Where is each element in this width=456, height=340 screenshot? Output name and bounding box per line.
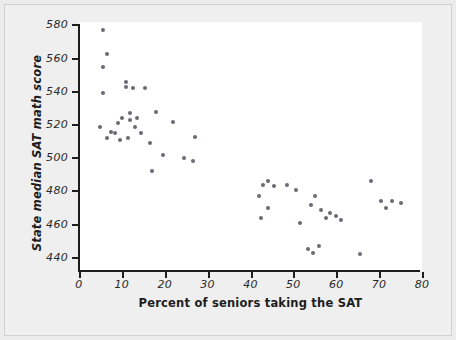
data-point <box>143 86 147 90</box>
data-point <box>101 28 105 32</box>
data-point <box>285 183 289 187</box>
data-point <box>118 138 122 142</box>
y-axis-tick <box>72 124 78 126</box>
data-point <box>309 203 313 207</box>
x-axis-title: Percent of seniors taking the SAT <box>79 296 422 310</box>
data-point <box>98 125 102 129</box>
data-point <box>294 188 298 192</box>
x-axis-tick-label: 50 <box>278 278 308 291</box>
x-axis-tick-label: 0 <box>64 278 94 291</box>
data-point <box>101 65 105 69</box>
x-axis-tick-label: 70 <box>364 278 394 291</box>
data-point <box>154 110 158 114</box>
data-point <box>379 199 383 203</box>
data-point <box>191 159 195 163</box>
data-point <box>126 136 130 140</box>
data-point <box>150 169 154 173</box>
data-point <box>116 121 120 125</box>
data-points-layer <box>79 22 422 271</box>
data-point <box>261 183 265 187</box>
data-point <box>358 252 362 256</box>
data-point <box>369 179 373 183</box>
y-axis-tick <box>72 157 78 159</box>
y-axis-tick <box>72 224 78 226</box>
data-point <box>390 199 394 203</box>
y-axis-tick <box>72 190 78 192</box>
data-point <box>317 244 321 248</box>
data-point <box>259 216 263 220</box>
data-point <box>131 86 135 90</box>
data-point <box>266 206 270 210</box>
data-point <box>319 208 323 212</box>
data-point <box>128 111 132 115</box>
y-axis-tick <box>72 24 78 26</box>
x-axis-tick-label: 80 <box>407 278 437 291</box>
data-point <box>313 194 317 198</box>
y-axis-line <box>78 24 80 272</box>
x-axis-tick-label: 10 <box>107 278 137 291</box>
data-point <box>101 91 105 95</box>
y-axis-tick <box>72 91 78 93</box>
data-point <box>324 216 328 220</box>
y-axis-tick <box>72 58 78 60</box>
data-point <box>266 179 270 183</box>
data-point <box>339 218 343 222</box>
data-point <box>193 135 197 139</box>
plot-area <box>79 22 422 271</box>
y-axis-tick <box>72 257 78 259</box>
y-axis-title: State median SAT math score <box>30 28 44 278</box>
data-point <box>328 211 332 215</box>
data-point <box>306 247 310 251</box>
data-point <box>161 153 165 157</box>
data-point <box>139 131 143 135</box>
data-point <box>171 120 175 124</box>
scatter-plot-figure: 440460480500520540560580 010203040506070… <box>0 0 456 340</box>
data-point <box>311 251 315 255</box>
x-axis-tick-label: 20 <box>150 278 180 291</box>
x-axis-tick-label: 30 <box>193 278 223 291</box>
data-point <box>133 125 137 129</box>
data-point <box>105 52 109 56</box>
x-axis-tick-label: 40 <box>236 278 266 291</box>
x-axis-line <box>78 270 420 272</box>
data-point <box>384 206 388 210</box>
data-point <box>182 156 186 160</box>
data-point <box>257 194 261 198</box>
data-point <box>135 116 139 120</box>
data-point <box>124 85 128 89</box>
data-point <box>124 80 128 84</box>
data-point <box>128 118 132 122</box>
data-point <box>399 201 403 205</box>
data-point <box>298 221 302 225</box>
data-point <box>105 136 109 140</box>
data-point <box>113 131 117 135</box>
data-point <box>120 116 124 120</box>
data-point <box>148 141 152 145</box>
data-point <box>334 214 338 218</box>
data-point <box>272 184 276 188</box>
x-axis-tick-label: 60 <box>321 278 351 291</box>
